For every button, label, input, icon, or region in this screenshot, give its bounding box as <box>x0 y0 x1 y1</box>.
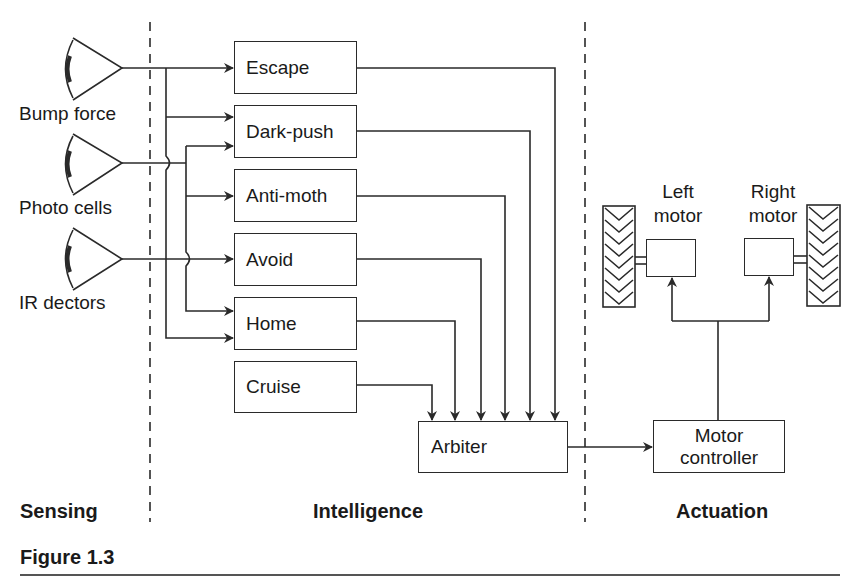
section-sensing: Sensing <box>20 500 98 523</box>
right-motor-box <box>744 238 794 276</box>
behavior-escape: Escape <box>234 41 357 94</box>
eye-icon-ir <box>66 228 123 290</box>
eye-icon-photo <box>66 134 123 195</box>
figure-caption: Figure 1.3 <box>20 546 114 569</box>
caption-rule <box>20 574 840 576</box>
behavior-avoid: Avoid <box>234 233 357 286</box>
sensor-label-bump: Bump force <box>19 103 116 125</box>
motor-controller-box: Motor controller <box>653 420 785 473</box>
sensor-label-photo: Photo cells <box>19 197 112 219</box>
left-wheel-icon <box>603 206 646 307</box>
sensor-label-ir: IR dectors <box>19 292 106 314</box>
behavior-anti-moth: Anti-moth <box>234 169 357 222</box>
section-actuation: Actuation <box>676 500 768 523</box>
section-intelligence: Intelligence <box>313 500 423 523</box>
arbiter-box: Arbiter <box>418 421 568 473</box>
left-motor-box <box>646 239 696 277</box>
diagram-lines <box>0 0 860 580</box>
right-motor-label: Right motor <box>740 180 806 228</box>
behavior-dark-push: Dark-push <box>234 105 357 158</box>
behavior-home: Home <box>234 297 357 350</box>
left-motor-label: Left motor <box>648 180 708 228</box>
eye-icon-bump <box>66 38 123 100</box>
behavior-cruise: Cruise <box>234 361 357 413</box>
